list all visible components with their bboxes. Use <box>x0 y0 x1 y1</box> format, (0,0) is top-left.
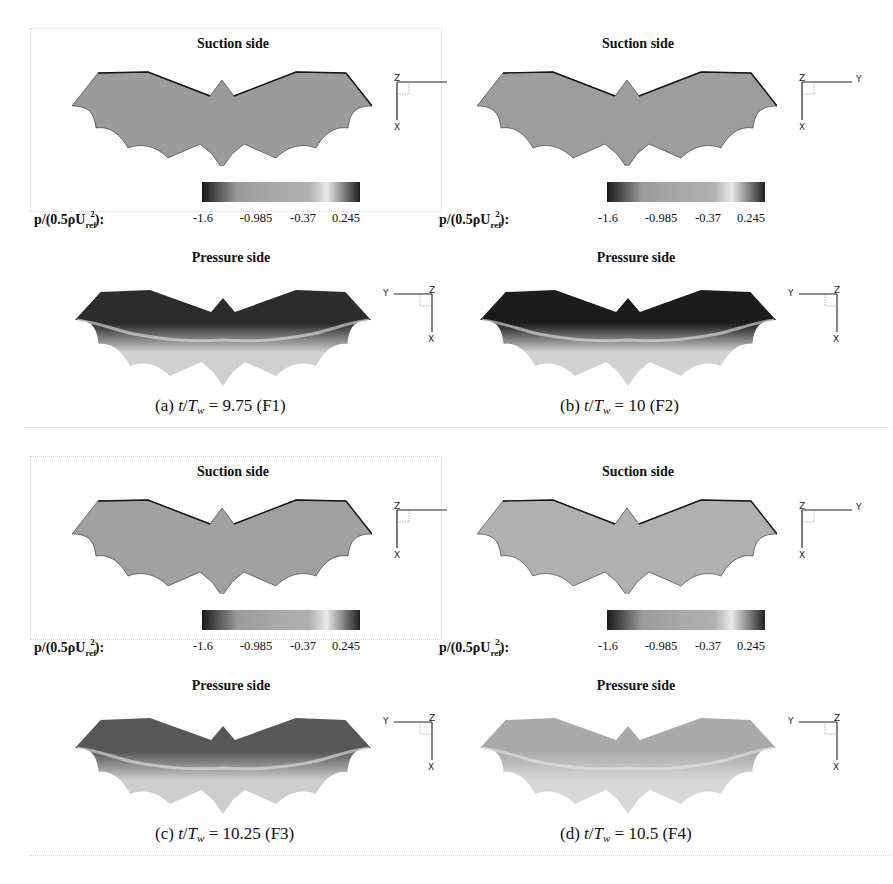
axes-triad-icon <box>800 504 860 564</box>
colorbar-label: p/(0.5ρUref2): <box>34 637 104 658</box>
suction-side-title: Suction side <box>133 464 333 480</box>
pressure-wing-contour <box>480 290 776 386</box>
pressure-wing-contour <box>75 718 371 814</box>
axis-label-z: Z <box>834 285 840 295</box>
colorbar <box>607 610 765 630</box>
axis-label-z: Z <box>799 501 805 511</box>
suction-side-title: Suction side <box>538 464 738 480</box>
colorbar-tick: -0.37 <box>290 211 316 226</box>
subfigure-caption: (d) t/Tw = 10.5 (F4) <box>560 824 692 844</box>
axis-label-y: Y <box>788 288 794 298</box>
colorbar-tick: -0.985 <box>240 211 272 226</box>
axes-triad-suction: Z X Y <box>800 76 860 136</box>
axis-label-x: X <box>799 550 805 560</box>
colorbar-tick: 0.245 <box>737 639 765 654</box>
pressure-side-title: Pressure side <box>536 250 736 266</box>
suction-side-title: Suction side <box>133 36 333 52</box>
axis-label-y: Y <box>383 716 389 726</box>
colorbar-tick: -0.37 <box>695 639 721 654</box>
colorbar-tick: -1.6 <box>598 211 618 226</box>
colorbar-tick: -1.6 <box>598 639 618 654</box>
axis-label-y: Y <box>383 288 389 298</box>
suction-wing-contour <box>477 70 777 166</box>
colorbar <box>202 610 360 630</box>
pressure-side-title: Pressure side <box>131 250 331 266</box>
pressure-side-title: Pressure side <box>131 678 331 694</box>
axes-triad-pressure: Y Z X <box>785 290 845 350</box>
colorbar-label: p/(0.5ρUref2): <box>34 209 104 230</box>
colorbar-tick: -1.6 <box>193 211 213 226</box>
axis-label-y: Y <box>856 74 862 84</box>
suction-wing-contour <box>72 498 372 594</box>
colorbar-tick: -0.37 <box>695 211 721 226</box>
colorbar <box>202 182 360 202</box>
axis-label-y: Y <box>788 716 794 726</box>
axis-label-z: Z <box>799 73 805 83</box>
subfigure-panel-d: Suction side <box>405 428 851 868</box>
colorbar-tick: -0.985 <box>645 639 677 654</box>
colorbar-tick: -0.37 <box>290 639 316 654</box>
axes-triad-suction: Z X Y <box>800 504 860 564</box>
pressure-wing-contour <box>75 290 371 386</box>
colorbar-tick: 0.245 <box>332 639 360 654</box>
subfigure-panel-b: Suction side <box>405 0 851 440</box>
axis-label-z: Z <box>394 73 400 83</box>
axis-label-x: X <box>799 122 805 132</box>
axis-label-z: Z <box>834 713 840 723</box>
pressure-side-title: Pressure side <box>536 678 736 694</box>
subfigure-caption: (a) t/Tw = 9.75 (F1) <box>155 396 286 416</box>
colorbar-label: p/(0.5ρUref2): <box>439 637 509 658</box>
colorbar-tick: -1.6 <box>193 639 213 654</box>
colorbar-tick: 0.245 <box>332 211 360 226</box>
axes-triad-icon <box>800 76 860 136</box>
subfigure-caption: (c) t/Tw = 10.25 (F3) <box>155 824 294 844</box>
colorbar <box>607 182 765 202</box>
colorbar-label: p/(0.5ρUref2): <box>439 209 509 230</box>
axis-label-x: X <box>833 334 839 344</box>
pressure-wing-contour <box>480 718 776 814</box>
axis-label-z: Z <box>394 501 400 511</box>
subfigure-panel-c: Suction side <box>0 428 446 868</box>
colorbar-tick: -0.985 <box>240 639 272 654</box>
axis-label-x: X <box>833 762 839 772</box>
colorbar-tick: 0.245 <box>737 211 765 226</box>
figure: Z X p/(0.5ρUref2): -1.6 -0.985 -0.37 0.2… <box>0 0 893 884</box>
suction-side-title: Suction side <box>538 36 738 52</box>
axis-label-x: X <box>394 122 400 132</box>
axis-label-x: X <box>394 550 400 560</box>
subfigure-panel-a: Suction side <box>0 0 446 440</box>
axis-label-y: Y <box>856 502 862 512</box>
suction-wing-contour <box>72 70 372 166</box>
subfigure-caption: (b) t/Tw = 10 (F2) <box>560 396 679 416</box>
suction-wing-contour <box>477 498 777 594</box>
colorbar-tick: -0.985 <box>645 211 677 226</box>
axes-triad-pressure: Y Z X <box>785 718 845 778</box>
